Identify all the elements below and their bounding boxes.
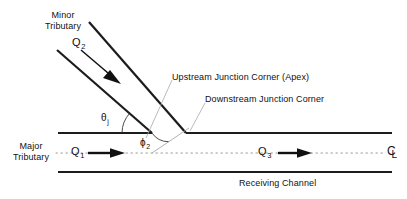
q3-arrow-head [297,148,312,158]
q2-arrow-shaft [81,50,108,73]
upstream-corner-leader [146,80,172,138]
theta-j-label: θj [101,112,109,124]
q1-subscript: 1 [80,151,85,160]
q1-label: Q1 [71,146,84,158]
q2-subscript: 2 [81,42,86,51]
q3-subscript: 3 [267,151,272,160]
centerline-l-glyph: L [392,150,398,160]
phi-symbol: ϕ [140,137,146,148]
phi-subscript: 2 [146,143,151,150]
downstream-corner-leader [190,103,205,131]
upstream-junction-corner-label: Upstream Junction Corner (Apex) [172,72,309,83]
q2-label: Q2 [72,37,85,49]
q2-symbol: Q [72,36,81,48]
major-tributary-label: Major Tributary [2,141,60,163]
junction-diagram: Minor Tributary Major Tributary Receivin… [0,0,407,199]
q3-symbol: Q [258,145,267,157]
q2-arrow-head [103,70,121,84]
receiving-channel-label: Receiving Channel [239,178,316,189]
phi-2-arc [152,133,169,142]
q3-label: Q3 [258,146,271,158]
theta-subscript: j [107,118,109,125]
minor-tributary-label: Minor Tributary [28,10,98,32]
phi-2-label: ϕ2 [140,137,150,149]
phi-2-ray [152,128,189,153]
centerline-symbol: C L [387,145,401,161]
q1-arrow-head [110,148,125,158]
theta-j-arc [122,113,130,133]
q1-symbol: Q [71,145,80,157]
downstream-junction-corner-label: Downstream Junction Corner [205,94,324,105]
theta-symbol: θ [101,112,107,123]
